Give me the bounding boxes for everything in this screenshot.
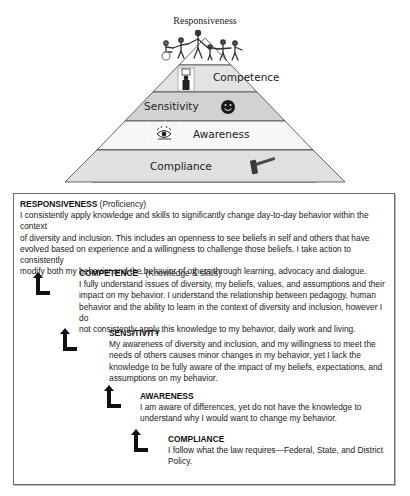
section-title: RESPONSIVENESS: [20, 199, 97, 209]
section-awareness: AWARENESS I am aware of differences, yet…: [140, 391, 390, 425]
arrow-up-icon: [131, 429, 149, 453]
section-title: AWARENESS: [140, 391, 194, 401]
pyramid-level-competence: Competence: [213, 71, 280, 83]
arrow-up-icon: [60, 328, 78, 352]
section-line: evolved based on experience and a willin…: [20, 244, 392, 266]
section-competence: COMPETENCE - (Knowledge & skills) I full…: [79, 268, 391, 335]
pyramid-level-sensitivity: Sensitivity: [144, 100, 199, 112]
section-line: needs of others causes minor changes in …: [109, 350, 391, 361]
section-title: COMPETENCE: [79, 268, 138, 278]
person-at-desk-icon: [178, 68, 194, 91]
pyramid-diagram: Responsiveness Competence Sensitivity Aw…: [0, 0, 410, 190]
section-title: SENSITIVITY: [109, 328, 160, 338]
section-line: I consistently apply knowledge and skill…: [20, 210, 392, 232]
section-sensitivity: SENSITIVITY My awareness of diversity an…: [109, 328, 391, 384]
section-line: I am aware of differences, yet do not ha…: [140, 402, 390, 413]
section-compliance: COMPLIANCE I follow what the law require…: [168, 434, 390, 468]
section-line: understand why I would want to change my…: [140, 413, 390, 424]
section-subtitle: (Proficiency): [97, 199, 146, 209]
levels-description-box: RESPONSIVENESS (Proficiency) I consisten…: [13, 193, 395, 485]
pyramid-level-awareness: Awareness: [193, 128, 249, 140]
section-line: of diversity and inclusion. This include…: [20, 233, 392, 244]
section-line: assumptions on my behavior.: [109, 373, 391, 384]
section-line: behavior and the ability to learn in the…: [79, 302, 391, 324]
section-line: I fully understand issues of diversity, …: [79, 279, 391, 290]
section-line: knowledge to be fully aware of the impac…: [109, 362, 391, 373]
section-line: impact on my behavior. I understand the …: [79, 290, 391, 301]
pyramid-level-compliance: Compliance: [150, 160, 212, 172]
section-line: Policy.: [168, 456, 390, 467]
smiley-face-icon: [221, 100, 235, 114]
section-subtitle: - (Knowledge & skills): [138, 268, 221, 278]
pyramid-top-label: Responsiveness: [0, 15, 410, 26]
section-line: I follow what the law requires—Federal, …: [168, 445, 390, 456]
section-line: My awareness of diversity and inclusion,…: [109, 339, 391, 350]
section-title: COMPLIANCE: [168, 434, 224, 444]
arrow-up-icon: [104, 385, 122, 409]
arrow-up-icon: [33, 272, 51, 296]
section-responsiveness: RESPONSIVENESS (Proficiency) I consisten…: [20, 199, 392, 277]
